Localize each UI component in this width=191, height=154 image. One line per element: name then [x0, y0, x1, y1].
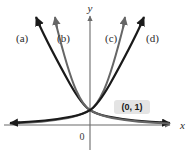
curve-b-arrow-up [55, 17, 57, 28]
curve-label-a: (a) [16, 32, 29, 45]
curve-d-arrow-up [140, 17, 144, 26]
exponential-curves-figure: (0, 1) (a) (b) (c) (d) y x 0 [0, 0, 191, 154]
curve-c-arrow-up [123, 17, 125, 28]
curve-label-c: (c) [105, 32, 118, 45]
curve-label-d: (d) [146, 32, 159, 45]
origin-label: 0 [80, 131, 85, 142]
point-label-text: (0, 1) [121, 102, 142, 112]
curve-label-b: (b) [57, 32, 70, 45]
point-annotation-group: (0, 1) [114, 100, 150, 114]
curve-a-arrow-up [36, 17, 40, 26]
x-axis-label: x [179, 119, 185, 131]
y-axis-label: y [87, 2, 93, 14]
curve-d-arrow-left [10, 123, 20, 124]
figure-canvas: (0, 1) (a) (b) (c) (d) y x 0 [0, 0, 191, 154]
